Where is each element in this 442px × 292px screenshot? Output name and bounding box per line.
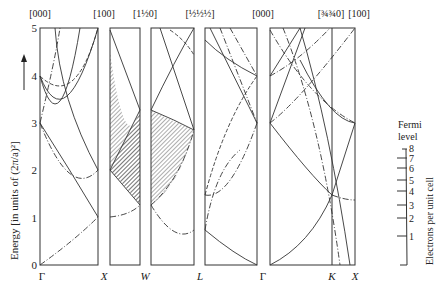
top-label-gamma-2: [000] [252, 8, 274, 19]
fermi-tick-2: 2 [409, 213, 414, 224]
ytick-1: 1 [32, 212, 38, 224]
ytick-3: 3 [32, 117, 38, 129]
y-axis-label: Energy [in units of (2π/a)²] [8, 141, 21, 260]
fermi-title-2: level [398, 131, 418, 142]
top-label-x-2: [100] [348, 8, 370, 19]
panel-l-gamma [205, 28, 257, 265]
top-label-k: [¾¾0] [318, 8, 345, 19]
top-label-gamma: [000] [29, 8, 51, 19]
top-label-l: [½½½] [185, 8, 214, 19]
bottom-labels: Γ X W L Γ K X [39, 270, 360, 282]
ytick-5: 5 [32, 22, 38, 34]
fermi-tick-8: 8 [409, 143, 414, 154]
fermi-title: Fermi [398, 119, 422, 130]
bottom-label-k: K [327, 270, 336, 282]
fermi-tick-5: 5 [409, 175, 414, 186]
band-structure-diagram: 0 1 2 3 4 5 Energy [in units of (2π/a)²]… [0, 0, 442, 292]
panel-frames [40, 28, 355, 265]
fermi-tick-7: 7 [409, 153, 414, 164]
panel-gamma-x [40, 28, 98, 265]
bottom-label-x-2: X [351, 270, 360, 282]
band-curves [40, 28, 355, 265]
ytick-4: 4 [32, 70, 38, 82]
fermi-ticks: 1 2 3 4 5 6 7 8 [409, 143, 414, 242]
top-label-w: [1½0] [133, 8, 157, 19]
fermi-level-scale: Fermi level 1 2 3 4 5 6 7 8 Electrons pe… [397, 119, 435, 265]
bottom-label-gamma-2: Γ [260, 270, 266, 282]
ytick-0: 0 [32, 259, 38, 271]
fermi-tick-1: 1 [409, 231, 414, 242]
top-labels: [000] [100] [1½0] [½½½] [000] [¾¾0] [100… [29, 8, 370, 19]
ytick-2: 2 [32, 164, 38, 176]
y-axis-ticks: 0 1 2 3 4 5 [32, 22, 38, 271]
fermi-tick-4: 4 [409, 186, 414, 197]
fermi-tick-3: 3 [409, 200, 414, 211]
fermi-axis-label: Electrons per unit cell [424, 177, 435, 265]
bottom-label-gamma: Γ [39, 270, 45, 282]
y-axis-arrow-icon [21, 54, 27, 90]
top-label-x: [100] [93, 8, 115, 19]
fermi-shaded-region [110, 52, 194, 205]
bottom-label-l: L [196, 270, 203, 282]
bottom-label-w: W [140, 270, 150, 282]
bottom-label-x: X [100, 270, 109, 282]
fermi-tick-6: 6 [409, 163, 414, 174]
